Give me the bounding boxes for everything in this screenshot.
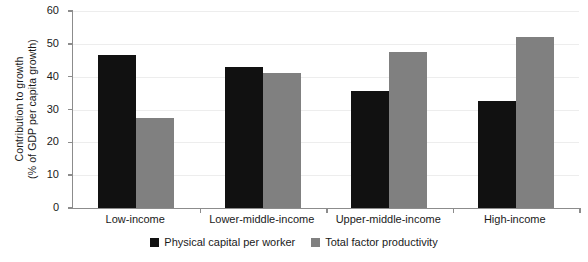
y-axis-tick-label: 50 — [3, 37, 59, 49]
legend-item: Total factor productivity — [311, 236, 438, 248]
x-axis-tick-label: Upper-middle-income — [325, 213, 452, 225]
x-axis-tick-label: Low-income — [72, 213, 199, 225]
y-axis-tick-mark — [68, 174, 73, 176]
bar — [516, 37, 554, 208]
x-axis-tick-labels: Low-incomeLower-middle-incomeUpper-middl… — [72, 213, 578, 233]
legend-swatch-icon — [150, 238, 159, 247]
y-axis-tick-label: 40 — [3, 70, 59, 82]
plot-area: 0102030405060 — [72, 11, 579, 209]
gridline — [73, 44, 579, 45]
x-axis-tick-label: High-income — [452, 213, 579, 225]
gridline — [73, 11, 579, 12]
y-axis-tick-mark — [68, 142, 73, 144]
x-axis-tick-mark — [579, 208, 581, 213]
y-axis-tick-mark — [68, 76, 73, 78]
legend-label: Physical capital per worker — [164, 236, 295, 248]
bar — [225, 67, 263, 208]
bar — [263, 73, 301, 208]
bar — [351, 91, 389, 208]
bar — [389, 52, 427, 208]
y-axis-tick-label: 0 — [3, 201, 59, 213]
gridline — [73, 77, 579, 78]
legend-item: Physical capital per worker — [150, 236, 295, 248]
legend-swatch-icon — [311, 238, 320, 247]
x-axis-tick-label: Lower-middle-income — [199, 213, 326, 225]
bar — [478, 101, 516, 208]
y-axis-tick-label: 20 — [3, 135, 59, 147]
y-axis-tick-label: 10 — [3, 168, 59, 180]
y-axis-tick-mark — [68, 109, 73, 111]
y-axis-tick-label: 60 — [3, 4, 59, 16]
chart-legend: Physical capital per workerTotal factor … — [0, 236, 588, 248]
bar-chart-figure: Contribution to growth (% of GDP per cap… — [0, 0, 588, 262]
y-axis-tick-label: 30 — [3, 103, 59, 115]
y-axis-tick-mark — [68, 10, 73, 12]
bar — [136, 118, 174, 208]
bar — [98, 55, 136, 208]
legend-label: Total factor productivity — [325, 236, 438, 248]
y-axis-tick-mark — [68, 207, 73, 209]
y-axis-tick-mark — [68, 43, 73, 45]
